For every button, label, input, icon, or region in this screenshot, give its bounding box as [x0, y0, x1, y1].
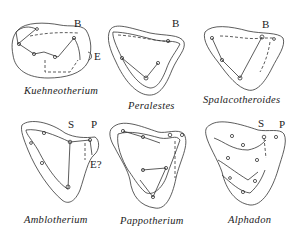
species-name-pappotherium: Pappotherium [120, 215, 184, 226]
pappotherium-tooth [110, 123, 186, 208]
label-b-spalacotheroides: B [262, 19, 269, 30]
alphadon-tooth [206, 122, 286, 205]
label-b-peralestes: B [172, 18, 179, 29]
tooth-outline-drawings [0, 0, 297, 233]
label-s-alphadon: S [258, 118, 264, 129]
species-name-peralestes: Peralestes [128, 100, 175, 111]
species-name-alphadon: Alphadon [228, 214, 271, 225]
label-e-amblotherium: E? [90, 159, 102, 170]
label-s-amblotherium: S [68, 119, 74, 130]
species-name-spalacotheroides: Spalacotheroides [203, 94, 280, 105]
spalacotheroides-tooth [204, 27, 283, 91]
amblotherium-tooth [21, 122, 98, 203]
label-e-kuehneotherium: E [94, 51, 101, 62]
kuehneotherium-tooth [12, 23, 91, 78]
label-p-alphadon: P [279, 119, 285, 130]
label-p-amblotherium: P [91, 119, 97, 130]
peralestes-tooth [108, 26, 184, 95]
species-name-amblotherium: Amblotherium [24, 214, 88, 225]
label-b-kuehneotherium: B [74, 18, 81, 29]
species-name-kuehneotherium: Kuehneotherium [24, 85, 98, 96]
